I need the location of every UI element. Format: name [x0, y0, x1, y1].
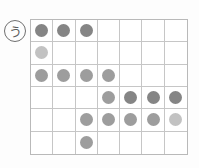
- grid-cell-r3-c2[interactable]: [53, 65, 75, 87]
- counter-dot-r1-c2: [57, 24, 70, 37]
- grid-cell-r5-c4[interactable]: [98, 109, 120, 131]
- grid-cell-r4-c3[interactable]: [76, 87, 98, 109]
- counter-dot-r3-c4: [102, 69, 115, 82]
- figure-root: う: [0, 0, 199, 168]
- counter-dot-r5-c3: [80, 113, 93, 126]
- counter-dot-r5-c5: [124, 113, 137, 126]
- grid-cell-r3-c4[interactable]: [98, 65, 120, 87]
- counter-dot-r3-c2: [57, 69, 70, 82]
- counter-dot-r4-c5: [124, 91, 137, 104]
- grid-cell-r2-c5[interactable]: [120, 42, 142, 64]
- counter-dot-r2-c1: [35, 46, 48, 59]
- counter-dot-r4-c7: [169, 91, 182, 104]
- grid-cell-r5-c1[interactable]: [31, 109, 53, 131]
- grid-cell-r3-c6[interactable]: [142, 65, 164, 87]
- grid-cell-r3-c1[interactable]: [31, 65, 53, 87]
- grid-cell-r6-c1[interactable]: [31, 132, 53, 154]
- counter-dot-r5-c6: [147, 113, 160, 126]
- dot-grid: [30, 19, 188, 155]
- counter-dot-r3-c1: [35, 69, 48, 82]
- grid-cell-r3-c5[interactable]: [120, 65, 142, 87]
- grid-cell-r4-c7[interactable]: [165, 87, 187, 109]
- grid-cell-r4-c5[interactable]: [120, 87, 142, 109]
- counter-dot-r4-c4: [102, 91, 115, 104]
- grid-cell-r6-c6[interactable]: [142, 132, 164, 154]
- grid-cell-r1-c4[interactable]: [98, 20, 120, 42]
- grid-cell-r1-c6[interactable]: [142, 20, 164, 42]
- item-label-circle: う: [4, 20, 26, 42]
- counter-dot-r5-c7: [169, 113, 182, 126]
- grid-cell-r1-c5[interactable]: [120, 20, 142, 42]
- grid-cell-r3-c3[interactable]: [76, 65, 98, 87]
- grid-cell-r6-c7[interactable]: [165, 132, 187, 154]
- grid-cell-r5-c2[interactable]: [53, 109, 75, 131]
- counter-dot-r1-c3: [80, 24, 93, 37]
- counter-dot-r3-c3: [80, 69, 93, 82]
- grid-cell-r3-c7[interactable]: [165, 65, 187, 87]
- grid-cell-r2-c6[interactable]: [142, 42, 164, 64]
- counter-dot-r5-c4: [102, 113, 115, 126]
- grid-cell-r5-c5[interactable]: [120, 109, 142, 131]
- grid-cell-r2-c4[interactable]: [98, 42, 120, 64]
- grid-cell-r1-c2[interactable]: [53, 20, 75, 42]
- grid-cell-r6-c5[interactable]: [120, 132, 142, 154]
- grid-cell-r5-c7[interactable]: [165, 109, 187, 131]
- item-label-text: う: [9, 24, 22, 37]
- grid-cell-r4-c1[interactable]: [31, 87, 53, 109]
- counter-dot-r4-c6: [147, 91, 160, 104]
- grid-cell-r5-c3[interactable]: [76, 109, 98, 131]
- grid-cell-r4-c6[interactable]: [142, 87, 164, 109]
- grid-cell-r5-c6[interactable]: [142, 109, 164, 131]
- grid-cell-r1-c3[interactable]: [76, 20, 98, 42]
- grid-cell-r6-c2[interactable]: [53, 132, 75, 154]
- grid-cell-r2-c2[interactable]: [53, 42, 75, 64]
- grid-cell-r4-c2[interactable]: [53, 87, 75, 109]
- counter-dot-r1-c1: [35, 24, 48, 37]
- grid-cell-r4-c4[interactable]: [98, 87, 120, 109]
- grid-cell-r2-c1[interactable]: [31, 42, 53, 64]
- grid-cell-r6-c3[interactable]: [76, 132, 98, 154]
- grid-cell-r6-c4[interactable]: [98, 132, 120, 154]
- grid-cell-r1-c7[interactable]: [165, 20, 187, 42]
- grid-cell-r2-c7[interactable]: [165, 42, 187, 64]
- grid-cell-r2-c3[interactable]: [76, 42, 98, 64]
- counter-dot-r6-c3: [80, 136, 93, 149]
- grid-cell-r1-c1[interactable]: [31, 20, 53, 42]
